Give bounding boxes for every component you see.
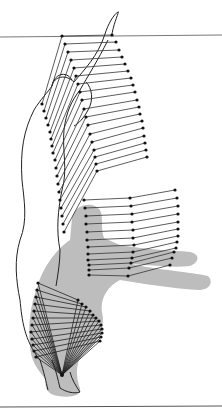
segment-line: [57, 107, 139, 176]
joint-marker: [176, 204, 179, 207]
joint-marker: [35, 288, 38, 291]
joint-marker: [55, 174, 58, 177]
joint-marker: [85, 230, 88, 233]
joint-marker: [76, 298, 79, 301]
joint-marker: [36, 281, 39, 284]
joint-marker: [51, 151, 54, 154]
joint-marker: [90, 140, 93, 143]
joint-marker: [82, 107, 85, 110]
joint-marker: [63, 42, 66, 45]
joint-marker: [82, 198, 85, 201]
joint-marker: [93, 155, 96, 158]
joint-marker: [117, 48, 120, 51]
joint-marker: [99, 323, 102, 326]
joint-marker: [129, 261, 132, 264]
joint-marker: [174, 246, 177, 249]
joint-marker: [95, 169, 98, 172]
joint-marker: [84, 115, 87, 118]
joint-marker: [30, 323, 33, 326]
figure-canvas: [0, 0, 222, 410]
segment-line: [46, 50, 119, 118]
joint-marker: [100, 327, 103, 330]
joint-marker: [130, 212, 133, 215]
joint-marker: [60, 34, 63, 37]
joint-marker: [34, 295, 37, 298]
joint-marker: [54, 166, 57, 169]
joint-marker: [80, 98, 83, 101]
joint-marker: [92, 148, 95, 151]
arm-sequence-markers: [40, 33, 148, 233]
joint-marker: [145, 155, 148, 158]
joint-marker: [59, 206, 62, 209]
joint-marker: [141, 126, 144, 129]
joint-marker: [123, 62, 126, 65]
segment-line: [44, 42, 116, 111]
joint-marker: [44, 116, 47, 119]
joint-marker: [170, 256, 173, 259]
joint-marker: [135, 98, 138, 101]
motion-figure: [0, 0, 222, 410]
joint-marker: [91, 313, 94, 316]
joint-marker: [29, 330, 32, 333]
joint-marker: [42, 109, 45, 112]
joint-marker: [173, 188, 176, 191]
joint-marker: [110, 33, 113, 36]
joint-marker: [76, 82, 79, 85]
joint-marker: [176, 227, 179, 230]
joint-marker: [130, 220, 133, 223]
segment-line: [51, 71, 128, 139]
joint-marker: [53, 158, 56, 161]
joint-marker: [172, 250, 175, 253]
joint-marker: [74, 74, 77, 77]
joint-marker: [130, 256, 133, 259]
joint-marker: [84, 214, 87, 217]
joint-marker: [88, 132, 91, 135]
hand-outline: [74, 82, 92, 126]
joint-marker: [176, 234, 179, 237]
joint-marker: [175, 196, 178, 199]
joint-marker: [34, 355, 37, 358]
joint-marker: [83, 206, 86, 209]
joint-marker: [129, 204, 132, 207]
joint-marker: [144, 148, 147, 151]
joint-marker: [86, 252, 89, 255]
joint-marker: [86, 123, 89, 126]
joint-marker: [84, 222, 87, 225]
joint-marker: [66, 50, 69, 53]
joint-marker: [87, 273, 90, 276]
joint-marker: [94, 316, 97, 319]
joint-marker: [133, 90, 136, 93]
joint-marker: [48, 130, 51, 133]
joint-marker: [137, 105, 140, 108]
joint-marker: [31, 343, 34, 346]
joint-marker: [58, 198, 61, 201]
joint-marker: [46, 123, 49, 126]
joint-marker: [138, 112, 141, 115]
joint-marker: [128, 196, 131, 199]
joint-marker: [61, 222, 64, 225]
joint-marker: [31, 316, 34, 319]
joint-marker: [60, 214, 63, 217]
joint-marker: [99, 335, 102, 338]
joint-marker: [131, 228, 134, 231]
joint-marker: [127, 266, 130, 269]
joint-marker: [72, 66, 75, 69]
joint-marker: [30, 337, 33, 340]
joint-marker: [100, 331, 103, 334]
joint-marker: [126, 69, 129, 72]
joint-marker: [87, 263, 90, 266]
joint-marker: [140, 119, 143, 122]
joint-marker: [87, 268, 90, 271]
joint-marker: [97, 319, 100, 322]
joint-marker: [84, 305, 87, 308]
joint-marker: [56, 182, 59, 185]
joint-marker: [126, 274, 129, 277]
joint-marker: [129, 76, 132, 79]
joint-marker: [176, 212, 179, 215]
joint-marker: [88, 309, 91, 312]
joint-marker: [49, 137, 52, 140]
joint-marker: [131, 236, 134, 239]
joint-marker: [62, 230, 65, 233]
joint-marker: [69, 58, 72, 61]
joint-marker: [86, 258, 89, 261]
